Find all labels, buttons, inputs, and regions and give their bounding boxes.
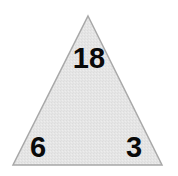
triangle-top-number: 18 <box>0 44 178 73</box>
triangle-bottom-right-number: 3 <box>126 133 142 162</box>
triangle-bottom-left-number: 6 <box>30 133 46 162</box>
triangle-shape <box>0 0 178 176</box>
number-triangle-figure: 18 6 3 <box>0 0 178 176</box>
